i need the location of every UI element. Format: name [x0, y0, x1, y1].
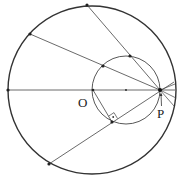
right-angle-dot — [112, 116, 114, 118]
chord-upper-left — [30, 34, 160, 90]
midpoint-2 — [101, 64, 104, 67]
midpoint-3 — [110, 120, 113, 123]
point-left — [6, 88, 9, 91]
point-upper-left — [28, 32, 31, 35]
point-bottom-left — [47, 162, 50, 165]
label-P: P — [157, 106, 164, 121]
small-circle-center — [125, 89, 127, 91]
point-P — [158, 88, 162, 92]
short-chord — [160, 84, 175, 90]
label-O: O — [78, 95, 87, 110]
short-chord — [160, 90, 176, 98]
chord-top — [87, 5, 160, 90]
short-chord — [160, 90, 174, 106]
midpoint-1 — [128, 54, 131, 57]
geometry-diagram: O P — [0, 0, 181, 181]
point-O — [92, 89, 95, 92]
point-top — [85, 3, 88, 6]
